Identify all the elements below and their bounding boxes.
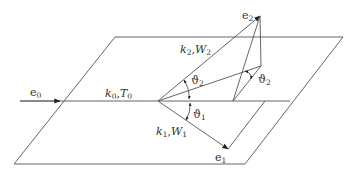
label-theta2: ϑ2	[191, 74, 204, 88]
phi2-arc	[245, 71, 251, 79]
scattering-plane	[14, 37, 343, 164]
label-theta1: ϑ1	[193, 108, 206, 122]
label-k0-T0: k0,T0	[105, 87, 132, 101]
e2-vector	[158, 16, 260, 101]
label-e2: e2	[242, 9, 254, 23]
label-phi2: ϑ2	[258, 73, 271, 87]
label-e0: e0	[30, 86, 42, 100]
scattering-diagram: e0 k0,T0 k1,W1 k2,W2 e1 e2 ϑ2 ϑ1 ϑ2	[0, 0, 360, 173]
e1-projection-line	[228, 101, 265, 149]
label-k2-W2: k2,W2	[180, 43, 211, 57]
e2-vertical-drop	[260, 16, 261, 66]
theta2-arc	[184, 80, 189, 99]
e2-diagonal	[233, 16, 260, 101]
label-k1-W1: k1,W1	[156, 125, 187, 139]
theta1-arc	[186, 103, 190, 120]
label-e1: e1	[215, 151, 226, 165]
